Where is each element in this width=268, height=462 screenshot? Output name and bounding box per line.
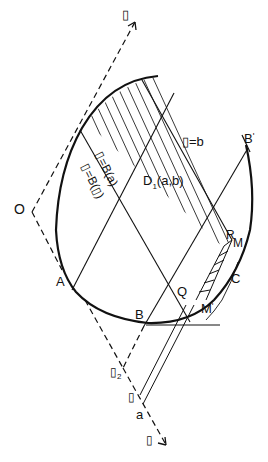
label-region-D1: D1(a,b): [143, 174, 184, 191]
line-xi-b: [142, 80, 232, 240]
label-point-a: a: [136, 408, 143, 421]
label-point-A: A: [56, 275, 65, 288]
label-xi-equals-b: ▯=b: [182, 135, 204, 148]
dashed-O-top: [32, 22, 135, 212]
label-point-Q: Q: [177, 285, 187, 298]
line-A-up: [72, 93, 174, 290]
label-top-axis: ▯: [122, 8, 129, 21]
label-point-M: M: [233, 237, 243, 249]
label-lower-point-2: ▯2: [110, 366, 121, 381]
arrowhead-top-icon: [128, 22, 136, 30]
label-small-point: ▯: [128, 391, 135, 403]
label-point-C: C: [231, 272, 240, 285]
label-bottom-axis: ▯: [146, 434, 153, 446]
dashed-B-xi2: [123, 326, 144, 368]
line-to-a-1: [140, 305, 186, 395]
dashed-A-xi2: [85, 300, 123, 368]
line-to-a-2: [143, 305, 194, 404]
dashed-xi2-bottom: [123, 368, 165, 443]
label-point-M-prime: M': [201, 302, 214, 315]
label-point-B-prime: B': [244, 132, 254, 145]
label-origin-O: O: [14, 202, 25, 216]
label-point-B: B: [135, 308, 144, 321]
